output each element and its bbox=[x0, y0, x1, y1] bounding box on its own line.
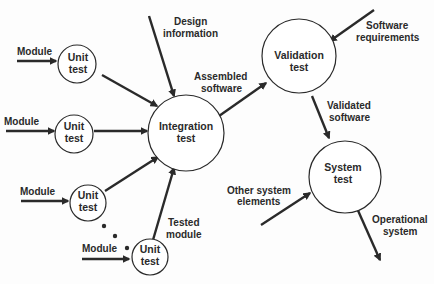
label-operational-system-2: system bbox=[383, 226, 418, 237]
svg-text:Unit: Unit bbox=[68, 51, 89, 63]
node-unit-test-4: Unit test bbox=[132, 239, 168, 275]
svg-text:test: test bbox=[65, 132, 84, 144]
node-unit-test-3: Unit test bbox=[70, 185, 106, 221]
svg-text:Unit: Unit bbox=[140, 243, 161, 255]
software-testing-strategy-diagram: Unit test Unit test Unit test Unit test … bbox=[0, 0, 434, 284]
node-system-test: System test bbox=[309, 141, 381, 213]
arrow-unit3-to-integration bbox=[105, 157, 158, 191]
node-validation-test: Validation test bbox=[262, 19, 336, 93]
label-tested-module-1: Tested bbox=[168, 217, 200, 228]
svg-text:Unit: Unit bbox=[78, 189, 99, 201]
svg-text:test: test bbox=[69, 63, 88, 75]
svg-text:test: test bbox=[141, 255, 160, 267]
svg-text:test: test bbox=[334, 173, 353, 185]
label-assembled-software-2: software bbox=[201, 83, 243, 94]
svg-text:Integration: Integration bbox=[159, 120, 213, 132]
label-design-information-2: information bbox=[163, 28, 218, 39]
label-operational-system-1: Operational bbox=[372, 214, 428, 225]
label-validated-software-1: Validated bbox=[327, 100, 371, 111]
label-module-4: Module bbox=[82, 243, 117, 254]
label-software-requirements-2: requirements bbox=[356, 32, 420, 43]
label-software-requirements-1: Software bbox=[366, 20, 409, 31]
label-assembled-software-1: Assembled bbox=[194, 71, 247, 82]
arrow-unit1-to-integration bbox=[102, 75, 157, 106]
label-tested-module-2: module bbox=[166, 229, 202, 240]
svg-text:test: test bbox=[177, 132, 196, 144]
node-integration-test: Integration test bbox=[148, 95, 224, 171]
node-unit-test-1: Unit test bbox=[58, 45, 96, 83]
svg-text:System: System bbox=[324, 161, 361, 173]
svg-text:test: test bbox=[290, 61, 309, 73]
label-module-2: Module bbox=[4, 116, 39, 127]
label-module-3: Module bbox=[20, 186, 55, 197]
label-other-system-elements-2: elements bbox=[237, 196, 281, 207]
label-validated-software-2: software bbox=[329, 112, 371, 123]
svg-text:Unit: Unit bbox=[64, 120, 85, 132]
node-unit-test-2: Unit test bbox=[55, 115, 93, 153]
svg-text:Validation: Validation bbox=[274, 49, 324, 61]
label-module-1: Module bbox=[17, 46, 52, 57]
label-other-system-elements-1: Other system bbox=[227, 185, 291, 196]
label-design-information-1: Design bbox=[174, 16, 207, 27]
svg-text:test: test bbox=[79, 201, 98, 213]
